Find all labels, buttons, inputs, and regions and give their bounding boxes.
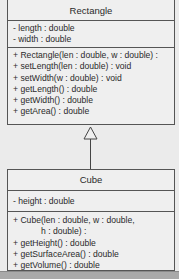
method: + setWidth(w : double) : void [13,73,174,84]
generalization-arrow-icon [83,126,98,140]
methods-section: + Rectangle(len : double, w : double) : … [8,48,174,118]
method: + Rectangle(len : double, w : double) : [13,50,174,61]
bottom-band [0,271,179,279]
method: + setLength(len : double) : void [13,61,174,72]
class-name: Rectangle [8,0,174,21]
method: + getWidth() : double [13,95,174,106]
method: + getHeight() : double [13,238,174,249]
class-rectangle: Rectangle - length : double - width : do… [7,0,175,125]
attributes-section: - length : double - width : double [8,21,174,48]
method: + getVolume() : double [13,260,174,271]
generalization-line [90,139,91,169]
attributes-section: - height : double [8,191,174,212]
method-continuation: h : double) : [13,226,174,237]
method: + Cube(len : double, w : double, [13,215,174,226]
attribute: - height : double [13,191,174,211]
attribute: - width : double [13,34,174,45]
attribute: - length : double [13,23,174,34]
class-cube: Cube - height : double + Cube(len : doub… [7,169,175,271]
method: + getLength() : double [13,84,174,95]
methods-section: + Cube(len : double, w : double, h : dou… [8,212,174,271]
class-name: Cube [8,170,174,191]
method: + getSurfaceArea() : double [13,249,174,260]
method: + getArea() : double [13,106,174,117]
